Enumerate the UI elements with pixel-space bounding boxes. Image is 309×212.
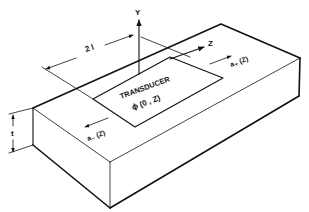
length-extension-line-left [42,67,93,99]
y-axis-label: Y [135,8,141,17]
length-dimension-left [46,58,76,69]
transducer-function: ϕ (0 , Z) [131,93,162,112]
a-minus-label: a₋ (Z) [86,129,106,143]
transducer-rectangle [93,57,223,127]
thickness-label: t [11,129,14,138]
z-axis-arrow [170,47,204,59]
slab-top-back-edge [33,24,300,108]
slab-bottom-right-edge [110,96,299,208]
slab [33,24,300,208]
slab-right-vertical-edge [299,58,300,96]
slab-transducer-diagram: Y Z 2 l TRANSDUCER ϕ (0 , Z) a₊ (Z) a₋ (… [0,0,309,212]
thickness-extension-top [9,108,33,114]
length-dimension-right [105,35,133,45]
transducer-title: TRANSDUCER [119,74,172,101]
length-label: 2 l [84,43,95,54]
a-plus-arrow [210,56,231,64]
a-minus-arrow [85,118,108,127]
a-plus-label: a₊ (Z) [229,55,249,69]
slab-bottom-left-edge [33,145,110,208]
z-axis-label: Z [208,39,213,48]
